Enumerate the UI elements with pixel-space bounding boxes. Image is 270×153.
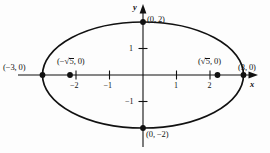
y-tick-label-1: 1 — [129, 45, 133, 53]
x-tick-label-2: 2 — [208, 82, 212, 90]
x-tick-label-minus1: −1 — [104, 82, 112, 90]
x-axis-label: x — [250, 80, 254, 89]
left-focus-prefix: (− — [57, 56, 64, 66]
point-dot-top-covertex — [140, 19, 146, 25]
x-axis-arrowhead — [249, 72, 259, 79]
sqrt-icon-left-focus: √5 — [64, 57, 73, 66]
point-label-right-vertex: (3, 0) — [238, 63, 256, 72]
ellipse-figure: y x −2 −1 1 2 1 −1 (−3, 0) (3, 0) (0, 2)… — [0, 0, 270, 153]
right-focus-suffix: , 0) — [210, 56, 221, 66]
figure-canvas — [0, 0, 270, 153]
point-label-left-vertex: (−3, 0) — [3, 63, 26, 72]
y-tick-label-minus1: −1 — [125, 98, 133, 106]
point-dot-right-focus — [215, 72, 221, 78]
point-label-right-focus: (√5, 0) — [198, 57, 221, 66]
x-tick-label-minus2: −2 — [70, 82, 78, 90]
point-dot-right-vertex — [241, 72, 247, 78]
point-dot-left-vertex — [40, 72, 46, 78]
point-dot-left-focus — [67, 72, 73, 78]
point-label-bottom-covertex: (0, −2) — [146, 130, 169, 139]
point-label-top-covertex: (0, 2) — [147, 15, 165, 24]
sqrt-icon-right-focus: √5 — [201, 57, 210, 66]
point-label-left-focus: (−√5, 0) — [57, 57, 85, 66]
x-tick-label-1: 1 — [174, 82, 178, 90]
y-axis-label: y — [133, 3, 137, 12]
y-axis-arrowhead — [140, 4, 147, 14]
left-focus-suffix: , 0) — [74, 56, 85, 66]
